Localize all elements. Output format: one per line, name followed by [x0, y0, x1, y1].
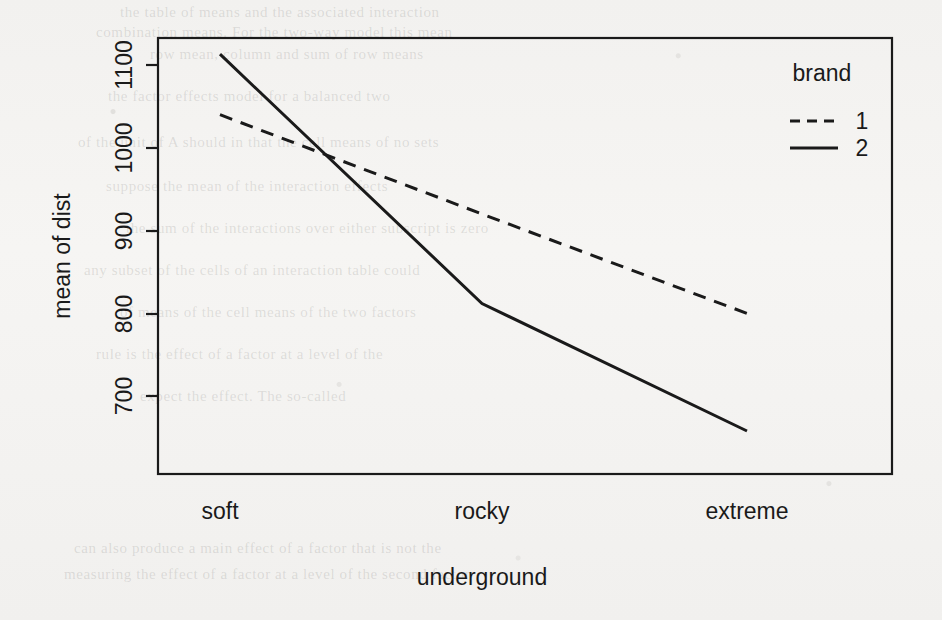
y-axis-tick-labels: 1100 1000 900 800 700 [111, 40, 137, 415]
y-tick-label: 700 [111, 377, 137, 415]
plot-panel-border [158, 38, 892, 474]
x-tick-label-soft: soft [201, 498, 239, 524]
x-axis-tick-labels: soft rocky extreme [201, 498, 788, 524]
legend-label-brand-1: 1 [856, 108, 869, 134]
x-tick-label-extreme: extreme [705, 498, 788, 524]
y-tick-label: 1100 [111, 40, 137, 89]
y-tick-label: 900 [111, 212, 137, 250]
legend-label-brand-2: 2 [856, 135, 869, 161]
x-tick-label-rocky: rocky [455, 498, 510, 524]
scanned-figure-page: the table of means and the associated in… [0, 0, 942, 620]
series-line-brand-1 [220, 115, 747, 314]
interaction-plot: 1100 1000 900 800 700 mean of dist soft … [0, 0, 942, 620]
y-tick-label: 1000 [111, 122, 137, 173]
x-axis-title: underground [417, 564, 547, 590]
series-line-brand-2 [220, 54, 747, 431]
legend: brand 1 2 [790, 60, 868, 161]
y-axis-ticks [146, 65, 158, 396]
legend-title: brand [793, 60, 852, 86]
y-axis-title: mean of dist [49, 193, 75, 319]
y-tick-label: 800 [111, 295, 137, 333]
